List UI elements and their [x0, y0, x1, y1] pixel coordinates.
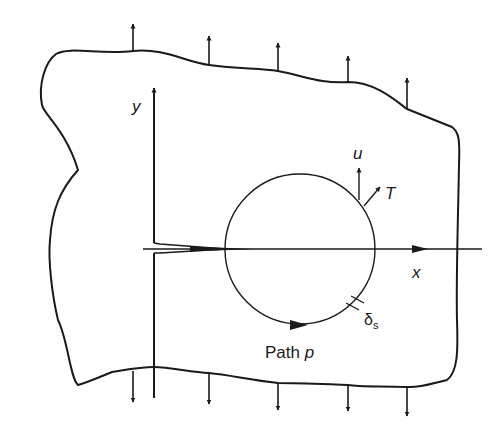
x-axis-label: x	[411, 263, 421, 282]
path-label-prefix: Path	[265, 343, 305, 362]
y-axis-label: y	[131, 97, 142, 116]
path-direction-arrow	[290, 320, 308, 330]
segment-ds-ticks	[346, 296, 364, 310]
displacement-label-u: u	[353, 144, 363, 163]
x-axis-arrowhead	[412, 245, 428, 253]
traction-vector-T	[364, 187, 380, 206]
path-label: Path p	[265, 343, 314, 362]
segment-label-ds: δs	[364, 311, 379, 331]
path-label-var: p	[304, 343, 314, 362]
bottom-load-arrows	[133, 371, 407, 416]
segment-label-main: δ	[364, 311, 373, 328]
top-load-arrows	[133, 24, 407, 109]
traction-label-T: T	[385, 184, 397, 203]
plate-boundary	[41, 51, 459, 388]
j-integral-diagram: y x u T Path p δs	[0, 0, 502, 431]
segment-label-sub: s	[373, 319, 379, 331]
